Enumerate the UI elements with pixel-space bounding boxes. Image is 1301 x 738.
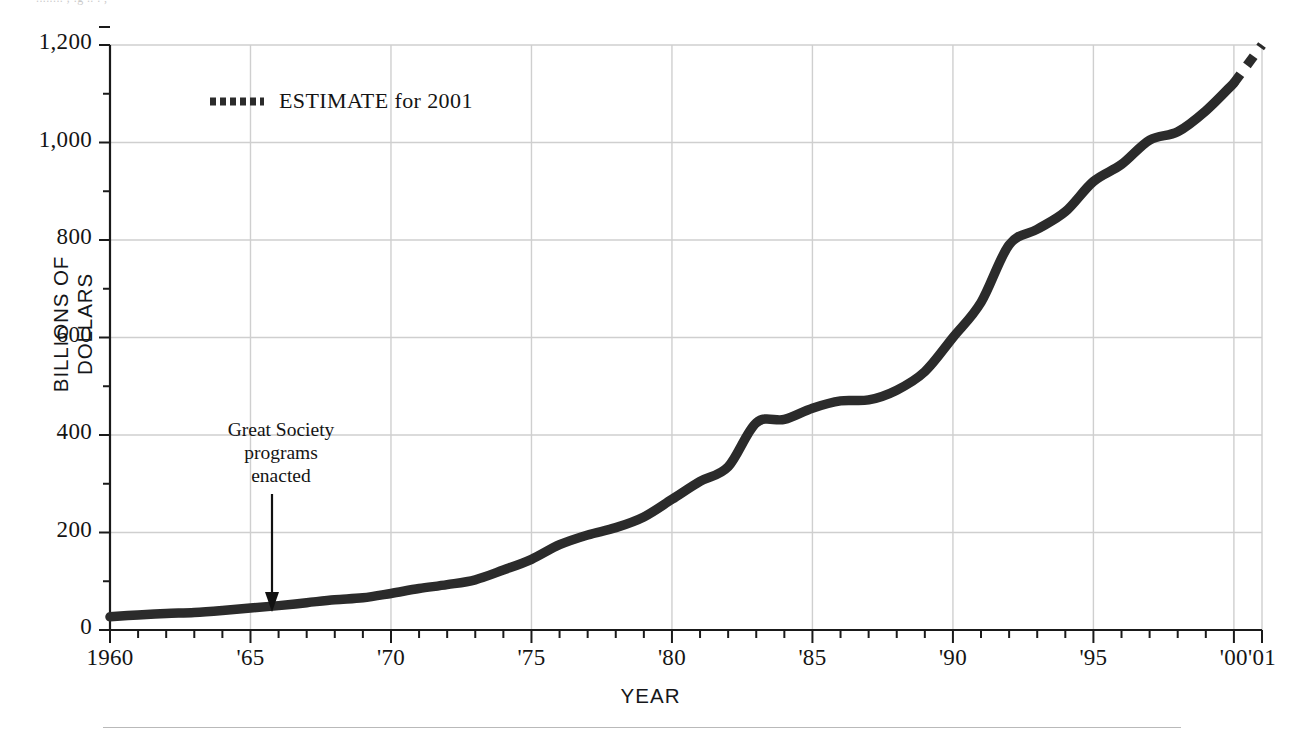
x-tick-label: '70 xyxy=(346,645,436,671)
x-tick-label: 1960 xyxy=(65,645,155,671)
x-tick-label: '65 xyxy=(205,645,295,671)
y-tick-marks xyxy=(99,27,110,630)
annotation-great-society: Great Society programs enacted xyxy=(186,418,376,487)
footer-rule xyxy=(103,727,1181,728)
gridlines xyxy=(110,45,1262,630)
x-tick-label: '95 xyxy=(1048,645,1138,671)
y-tick-label: 800 xyxy=(0,224,92,250)
x-tick-label: '01 xyxy=(1217,645,1301,671)
legend: ESTIMATE for 2001 xyxy=(208,88,473,114)
x-tick-label: '75 xyxy=(486,645,576,671)
x-tick-label: '90 xyxy=(908,645,998,671)
annotation-line-1: Great Society xyxy=(186,418,376,441)
x-tick-label: '85 xyxy=(767,645,857,671)
x-tick-label: '80 xyxy=(627,645,717,671)
legend-label: ESTIMATE for 2001 xyxy=(279,88,473,114)
chart-plot-area xyxy=(0,0,1301,738)
y-tick-label: 1,200 xyxy=(0,29,92,55)
y-tick-label: 200 xyxy=(0,517,92,543)
y-tick-label: 600 xyxy=(0,322,92,348)
y-tick-label: 1,000 xyxy=(0,127,92,153)
annotation-arrow-icon xyxy=(265,494,279,612)
y-tick-label: 0 xyxy=(0,614,92,640)
data-line-estimate xyxy=(1234,45,1262,83)
chart-figure: ........ ; .g .. . , BILLIONS OF DOLLARS… xyxy=(0,0,1301,738)
y-tick-label: 400 xyxy=(0,419,92,445)
annotation-line-3: enacted xyxy=(186,464,376,487)
legend-dotted-swatch-icon xyxy=(208,97,266,106)
annotation-line-2: programs xyxy=(186,441,376,464)
x-tick-marks xyxy=(110,630,1262,643)
